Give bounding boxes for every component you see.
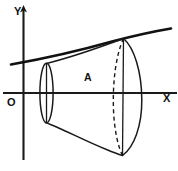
y-axis-label: Y bbox=[14, 5, 22, 17]
figure-canvas: Y X O A bbox=[0, 0, 178, 171]
x-axis-label: X bbox=[163, 92, 171, 104]
figure-background bbox=[0, 0, 178, 171]
region-label-a: A bbox=[84, 71, 92, 83]
solid-of-revolution-figure: Y X O A bbox=[0, 0, 178, 171]
origin-label: O bbox=[7, 96, 16, 108]
